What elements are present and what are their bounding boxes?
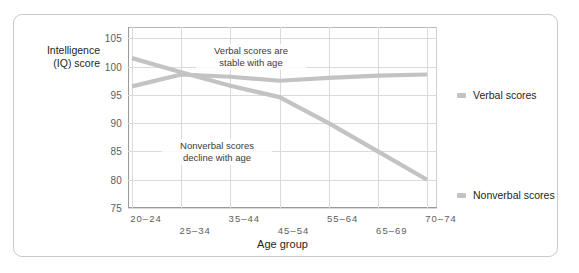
- gridline-horizontal: [128, 208, 437, 209]
- x-tick-label: 20–24: [130, 213, 161, 224]
- legend-label-verbal: Verbal scores: [473, 89, 537, 101]
- series-line-verbal-scores: [132, 75, 427, 87]
- annotation-verbal-scores: Verbal scores are stable with age: [196, 44, 306, 70]
- y-tick-label: 85: [110, 146, 122, 157]
- legend-item-nonverbal-scores[interactable]: Nonverbal scores: [457, 189, 555, 201]
- y-axis-title: Intelligence (IQ) score: [22, 44, 100, 70]
- chart-figure: Intelligence (IQ) score 7580859095100105…: [0, 0, 579, 273]
- legend-swatch-verbal: [457, 93, 466, 98]
- y-tick-label: 80: [110, 174, 122, 185]
- x-tick-label: 70–74: [425, 213, 456, 224]
- y-tick-label: 75: [110, 203, 122, 214]
- x-tick-label: 55–64: [327, 213, 358, 224]
- x-tick-label: 45–54: [278, 225, 309, 236]
- x-axis-title: Age group: [128, 238, 437, 250]
- y-tick-label: 90: [110, 118, 122, 129]
- legend-swatch-nonverbal: [457, 193, 466, 198]
- y-tick-label: 105: [105, 33, 122, 44]
- y-tick-label: 95: [110, 89, 122, 100]
- x-tick-label: 25–34: [179, 225, 210, 236]
- y-tick-label: 100: [105, 61, 122, 72]
- legend-label-nonverbal: Nonverbal scores: [473, 189, 555, 201]
- legend-item-verbal-scores[interactable]: Verbal scores: [457, 89, 537, 101]
- x-tick-label: 65–69: [376, 225, 407, 236]
- annotation-nonverbal-scores: Nonverbal scores decline with age: [162, 139, 272, 165]
- x-tick-label: 35–44: [229, 213, 260, 224]
